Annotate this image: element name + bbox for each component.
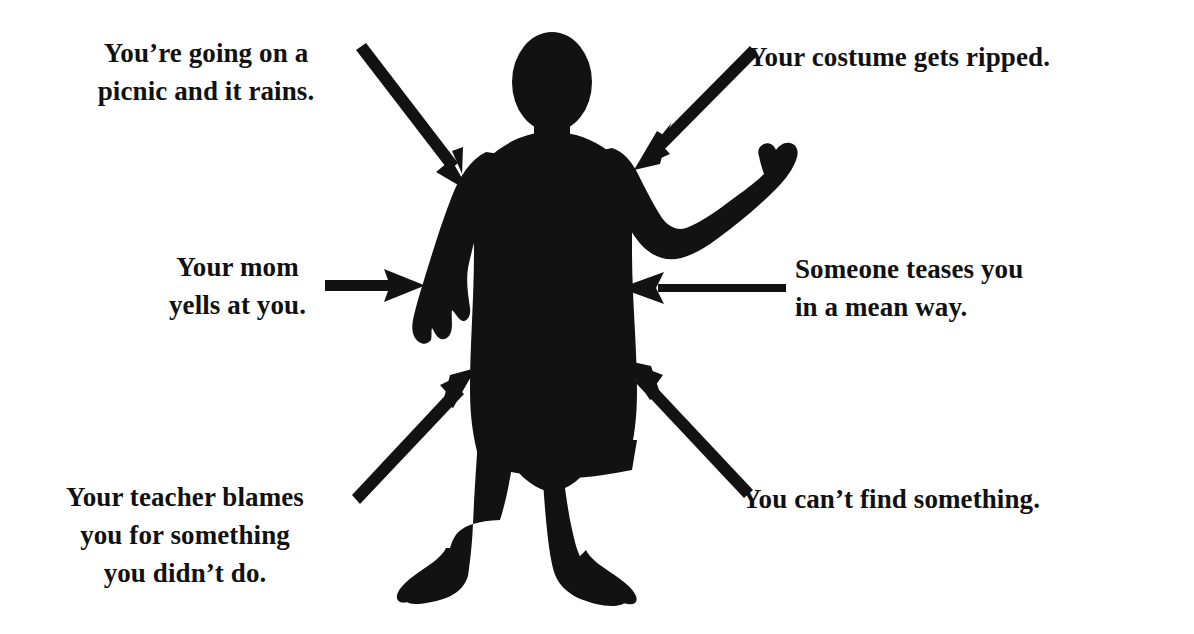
label-teacher-blames: Your teacher blames you for something yo…: [20, 478, 350, 592]
label-costume-ripped: Your costume gets ripped.: [748, 38, 1148, 76]
arrow-from-mom-label: [325, 269, 425, 302]
arrow-from-costume-label: [634, 46, 758, 170]
label-cant-find: You can’t find something.: [742, 480, 1162, 518]
arrow-from-teacher-label: [352, 368, 476, 504]
label-picnic-rain: You’re going on a picnic and it rains.: [56, 34, 356, 110]
label-someone-teases: Someone teases you in a mean way.: [795, 250, 1155, 326]
label-mom-yells: Your mom yells at you.: [150, 248, 325, 324]
arrow-from-find-label: [624, 360, 753, 498]
arrow-from-teases-label: [620, 272, 786, 304]
arrow-from-picnic-label: [356, 43, 470, 192]
diagram-canvas: You’re going on a picnic and it rains. Y…: [0, 0, 1194, 634]
